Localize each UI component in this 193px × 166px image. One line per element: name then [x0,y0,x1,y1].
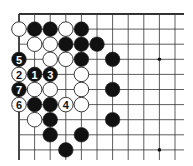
move-number: 7 [16,84,22,96]
black-stone [105,112,120,127]
white-stone [43,52,58,67]
black-stone [43,97,58,112]
black-stone [74,22,89,37]
move-number: 5 [16,54,22,66]
white-stone [27,37,42,52]
black-stone [74,52,89,67]
black-stone [59,37,74,52]
white-stone [74,67,89,82]
white-stone: 4 [59,97,74,112]
white-stone [59,22,74,37]
black-stone [90,37,105,52]
black-stone [27,22,42,37]
black-stone [105,82,120,97]
white-stone [27,82,42,97]
move-number: 6 [16,99,22,111]
star-point [158,148,162,152]
white-stone [74,97,89,112]
black-stone [74,128,89,143]
black-stone: 5 [12,52,27,67]
black-stone: 1 [27,67,42,82]
black-stone [59,143,74,158]
move-number: 4 [63,99,70,111]
black-stone: 7 [12,82,27,97]
move-number: 1 [32,69,38,81]
go-board: 5213764 [0,0,193,166]
white-stone [74,82,89,97]
move-number: 2 [16,69,22,81]
white-stone [12,22,27,37]
white-stone: 6 [12,97,27,112]
black-stone: 3 [43,67,58,82]
white-stone [27,112,42,127]
black-stone [43,22,58,37]
white-stone [59,52,74,67]
star-point [158,58,162,62]
black-stone [27,97,42,112]
black-stone [43,112,58,127]
white-stone: 2 [12,67,27,82]
white-stone [43,37,58,52]
black-stone [43,128,58,143]
black-stone [105,52,120,67]
white-stone [43,82,58,97]
black-stone [74,37,89,52]
move-number: 3 [47,69,53,81]
